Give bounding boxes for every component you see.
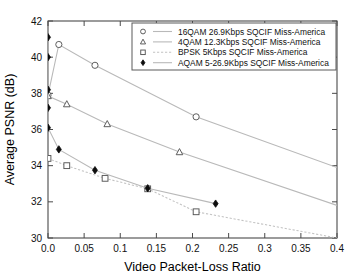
legend-label: BPSK 5Kbps SQCIF Miss-America [178, 47, 308, 57]
marker-filled-diamond [92, 166, 97, 173]
series-1 [45, 93, 337, 206]
marker-open-square [102, 175, 108, 181]
psnr-vs-packet-loss-chart: 30323436384042 0.00.050.10.150.20.250.30… [0, 0, 353, 278]
marker-open-circle [92, 62, 98, 68]
x-tick-label: 0.05 [74, 243, 94, 254]
legend-label: 4QAM 12.3Kbps SQCIF Miss-America [178, 37, 321, 47]
x-tick-label: 0.4 [330, 243, 344, 254]
marker-filled-diamond [46, 34, 51, 41]
x-tick-label: 0.0 [41, 243, 55, 254]
marker-filled-diamond [213, 200, 218, 207]
y-tick-label: 30 [31, 233, 43, 244]
y-tick-label: 32 [31, 196, 43, 207]
x-tick-label: 0.3 [258, 243, 272, 254]
legend-label: AQAM 5-26.9Kbps SQCIF Miss-America [178, 58, 329, 68]
marker-filled-diamond [46, 53, 51, 60]
x-tick-label: 0.35 [291, 243, 311, 254]
y-tick-label: 42 [31, 16, 43, 27]
y-tick-label: 38 [31, 88, 43, 99]
marker-open-circle [141, 29, 146, 34]
y-tick-label: 40 [31, 52, 43, 63]
legend-label: 16QAM 26.9Kbps SQCIF Miss-America [178, 27, 325, 37]
y-axis-title: Average PSNR (dB) [3, 74, 17, 186]
series-line [48, 96, 337, 205]
series-2 [45, 156, 337, 238]
x-tick-label: 0.25 [219, 243, 239, 254]
marker-open-triangle [104, 121, 111, 127]
figure-container: 30323436384042 0.00.050.10.150.20.250.30… [0, 0, 353, 278]
marker-filled-diamond [46, 104, 51, 111]
marker-open-circle [56, 41, 62, 47]
x-tick-label: 0.1 [113, 243, 127, 254]
marker-open-circle [193, 114, 199, 120]
y-tick-label: 34 [31, 160, 43, 171]
marker-open-square [64, 163, 70, 169]
y-tick-label: 36 [31, 124, 43, 135]
marker-open-square [45, 156, 51, 162]
x-tick-label: 0.15 [147, 243, 167, 254]
marker-open-square [141, 50, 146, 55]
x-tick-label: 0.2 [186, 243, 200, 254]
marker-open-square [193, 209, 199, 215]
x-axis-title: Video Packet-Loss Ratio [124, 260, 261, 274]
legend: 16QAM 26.9Kbps SQCIF Miss-America4QAM 12… [132, 23, 336, 70]
